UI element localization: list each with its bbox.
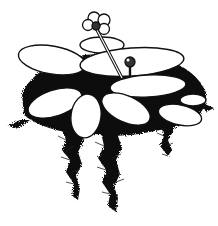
caption	[8, 218, 208, 226]
leaf	[180, 94, 206, 106]
root-mass	[8, 54, 214, 212]
botanical-illustration	[0, 0, 218, 226]
leaf	[16, 40, 88, 79]
